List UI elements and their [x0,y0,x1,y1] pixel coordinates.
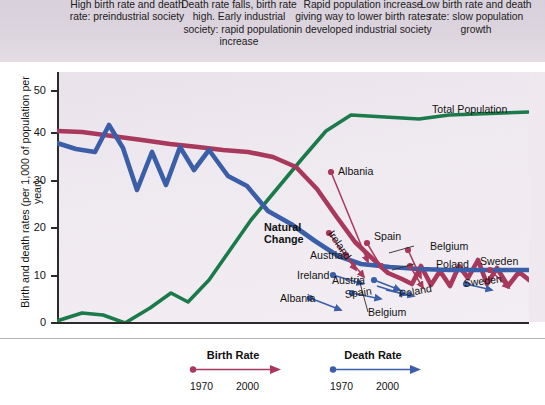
dot-birth-albania [328,169,334,175]
label-birth-albania: Albania [338,165,373,177]
legend-death-rate-title: Death Rate [318,349,428,361]
legend-birth-rate: Birth Rate 19702000 [178,349,288,392]
chart-canvas [0,0,545,405]
legend-death-rate: Death Rate 19702000 [318,349,428,392]
label-death-ireland: Ireland [297,269,329,281]
label-birth-austria: Austria [310,249,343,261]
legend-divider [0,338,545,339]
dot-birth-sweden [487,267,493,273]
label-death-albania: Albania [280,292,315,304]
chart-page: High birth rate and death rate: preindus… [0,0,545,405]
label-death-austria: Austria [332,274,365,286]
label-birth-spain: Spain [374,230,401,242]
dot-birth-spain [364,240,370,246]
legend-death-start-year: 1970 [324,381,376,392]
label-birth-belgium: Belgium [430,240,468,252]
label-total-population: Total Population [432,103,507,115]
legend-birth-rate-title: Birth Rate [178,349,288,361]
legend-death-rate-arrow [318,363,428,376]
dot-death-austria [371,277,377,283]
label-natural-change-line2: Change [264,233,304,245]
legend-birth-rate-arrow [178,363,288,376]
legend-birth-rate-years: 19702000 [178,381,288,392]
label-birth-poland: Poland [436,258,469,270]
legend-birth-end-year: 2000 [236,381,282,392]
legend-death-end-year: 2000 [376,381,422,392]
label-natural-change-line1: Natural [264,221,301,233]
legend-birth-start-year: 1970 [184,381,236,392]
legend-death-rate-years: 19702000 [318,381,428,392]
label-birth-sweden: Sweden [480,255,518,267]
label-death-belgium: Belgium [368,306,406,318]
